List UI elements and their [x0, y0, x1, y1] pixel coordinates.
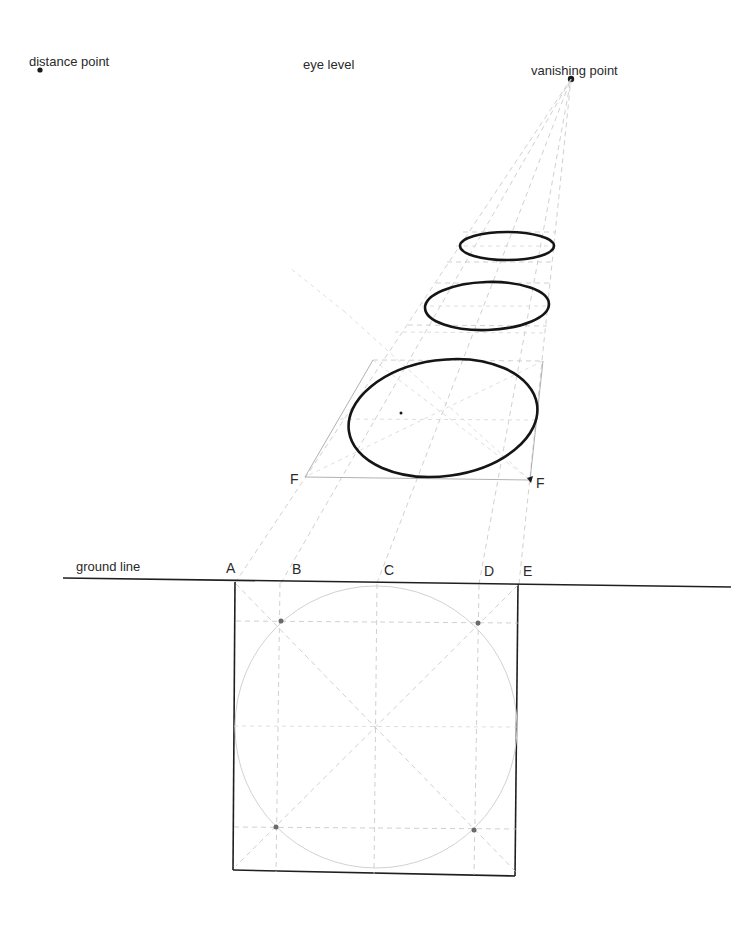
distance-point-label: distance point	[29, 55, 109, 68]
plan-point-top-left	[279, 619, 284, 624]
point-label-e: E	[523, 564, 532, 578]
plan-point-top-right	[476, 621, 481, 626]
transversal-lines	[305, 232, 555, 480]
point-label-a: A	[226, 561, 235, 575]
near-ellipse	[341, 347, 545, 488]
eye-level-label: eye level	[303, 58, 354, 71]
front-right-f-label: F	[536, 476, 545, 490]
point-label-b: B	[292, 562, 301, 576]
point-label-d: D	[484, 564, 494, 578]
front-corner-marker	[527, 476, 533, 483]
point-label-c: C	[384, 563, 394, 577]
orthogonal-lines	[235, 79, 571, 584]
perspective-diagram	[0, 0, 752, 937]
vanishing-point-label: vanishing point	[531, 64, 618, 77]
near-ellipse-center-dot	[400, 412, 403, 415]
distance-diagonals	[290, 268, 530, 480]
ground-line-label: ground line	[76, 560, 140, 573]
plan-point-bottom-left	[274, 825, 279, 830]
plan-point-bottom-right	[472, 828, 477, 833]
ground-line	[63, 578, 731, 587]
front-left-edge	[305, 360, 373, 477]
front-left-f-label: F	[290, 472, 299, 486]
